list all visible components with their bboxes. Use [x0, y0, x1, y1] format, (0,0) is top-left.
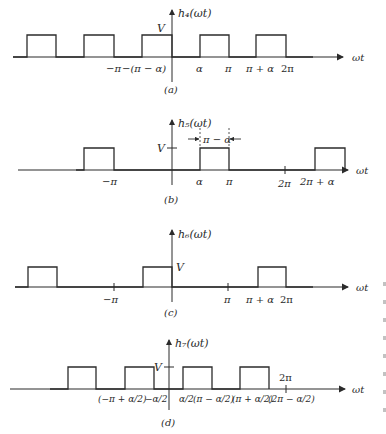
tick-label: −π — [102, 176, 117, 187]
tick-label: α — [196, 176, 203, 187]
tick-label: −α/2 — [145, 394, 168, 404]
x-axis-label: ωt — [356, 165, 369, 176]
tick-label: −π — [103, 294, 118, 305]
tick-label: 2π — [277, 178, 291, 189]
tick-label: 2π — [279, 372, 292, 383]
tick-label: (2π − α/2) — [268, 394, 315, 404]
tick-label: π + α — [245, 63, 274, 74]
tick-label: π — [223, 294, 231, 305]
tick-label: π — [225, 176, 233, 187]
x-axis-label: ωt — [356, 282, 369, 293]
tick-label: 2π + α — [299, 176, 335, 187]
tick-label: 2π — [281, 63, 294, 74]
level-label: V — [154, 361, 163, 374]
level-label: V — [157, 142, 166, 155]
pulse-train — [76, 148, 345, 170]
pulse-train — [13, 35, 313, 57]
panel-a: h₄(ωt) V ωt −π −(π − α) α π π + α 2π (a) — [13, 7, 365, 95]
panel-b: π − α h₅(ωt) V ωt −π α π 2π 2π + α (b) — [18, 117, 369, 205]
y-axis-label: h₅(ωt) — [178, 117, 211, 130]
x-axis-label: ωt — [352, 384, 365, 395]
panel-caption: (a) — [164, 84, 178, 95]
y-axis-label: h₄(ωt) — [178, 7, 211, 20]
tick-label: 2π — [280, 294, 293, 305]
y-axis-label: h₆(ωt) — [178, 228, 211, 241]
tick-label: −(π − α) — [122, 63, 166, 74]
tick-label: (π − α/2) — [193, 394, 235, 404]
panel-d: h₇(ωt) V ωt (−π + α/2) −α/2 α/2 (π − α/2… — [10, 337, 365, 428]
panel-caption: (d) — [161, 417, 175, 428]
level-label: V — [157, 22, 166, 35]
panel-c: h₆(ωt) V ωt −π π π + α 2π (c) — [15, 228, 369, 318]
tick-label: (−π + α/2) — [98, 394, 147, 404]
width-annotation: π − α — [202, 134, 231, 145]
pulse-train — [15, 267, 313, 287]
tick-label: α/2 — [179, 394, 194, 404]
tick-label: π + α — [245, 294, 274, 305]
tick-label: −π — [106, 63, 121, 74]
level-label: V — [176, 261, 185, 274]
panel-caption: (c) — [164, 307, 178, 318]
panel-caption: (b) — [164, 194, 178, 205]
tick-label: π — [224, 63, 232, 74]
x-axis-label: ωt — [352, 52, 365, 63]
pulse-waveform-figure: h₄(ωt) V ωt −π −(π − α) α π π + α 2π (a)… — [0, 0, 386, 434]
tick-label: α — [196, 63, 203, 74]
y-axis-label: h₇(ωt) — [175, 337, 208, 350]
